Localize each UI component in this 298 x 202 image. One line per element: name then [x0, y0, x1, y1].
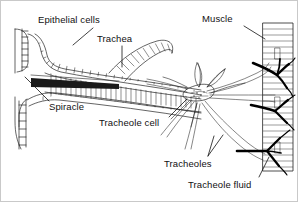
leader-muscle: [244, 26, 265, 39]
spiracle-opening: [15, 29, 28, 149]
spiracle-cell-column-lower: [19, 100, 26, 149]
figure-insect-tracheal-system: Epithelial cells Trachea Muscle Spiracle…: [0, 0, 298, 202]
diagram-ink: [15, 23, 295, 177]
label-tracheoles: Tracheoles: [164, 158, 212, 169]
label-tracheole-cell: Tracheole cell: [99, 117, 159, 128]
label-trachea: Trachea: [97, 33, 132, 44]
muscle-block: [263, 23, 293, 171]
label-tracheole-fluid: Tracheole fluid: [188, 179, 251, 190]
tracheal-system-drawing: [1, 1, 297, 201]
tracheole-fluid: [237, 58, 295, 175]
trachea-upper-branch: [109, 40, 173, 81]
leader-epithelial-cells: [73, 28, 93, 45]
label-epithelial-cells: Epithelial cells: [38, 14, 100, 25]
tracheole-cell-nucleus: [193, 91, 204, 98]
spiracle-cell-column-upper: [22, 29, 28, 71]
label-muscle: Muscle: [202, 13, 233, 24]
leader-tracheoles: [208, 135, 223, 156]
label-spiracle: Spiracle: [49, 101, 84, 112]
